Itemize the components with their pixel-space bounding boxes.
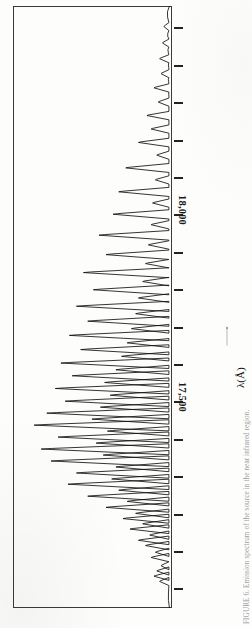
axis-tick: [174, 102, 183, 104]
spectrum-trace: [13, 6, 172, 608]
axis-tick: [174, 140, 183, 142]
axis-tick: [174, 27, 183, 29]
axis-tick: [174, 252, 183, 254]
axis-tick-label: 17,500: [177, 382, 188, 412]
axis-tick: [174, 476, 183, 478]
axis-arrow-icon: [226, 288, 228, 384]
figure-caption: FIGURE 6. Emission spectrum of the sourc…: [243, 410, 251, 624]
wavelength-axis-ticks: [174, 6, 186, 608]
axis-tick: [174, 439, 183, 441]
axis-tick: [174, 327, 183, 329]
axis-tick: [174, 289, 183, 291]
axis-tick: [174, 551, 183, 553]
axis-tick: [174, 364, 183, 366]
axis-tick: [174, 514, 183, 516]
spectrum-path-group: [34, 6, 169, 608]
axis-tick-label: 18,000: [177, 195, 188, 225]
axis-title-label: λ(Å): [234, 367, 246, 388]
figure-panel: 17,50018,000 λ(Å) FIGURE 6. Emission spe…: [0, 0, 252, 628]
axis-tick: [174, 177, 183, 179]
axis-tick: [174, 588, 183, 590]
axis-title-group: λ(Å): [212, 288, 246, 420]
axis-tick: [174, 65, 183, 67]
